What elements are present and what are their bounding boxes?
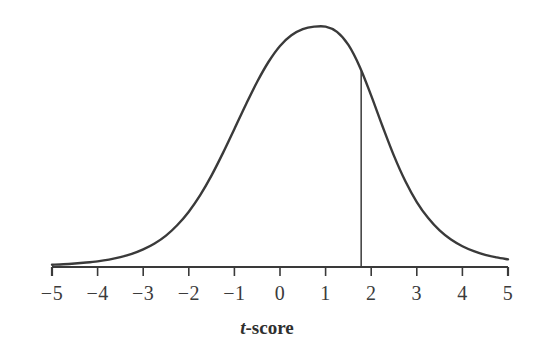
axis-group [52, 267, 508, 276]
right-tail-region [361, 70, 508, 267]
x-axis-tick-label: 5 [488, 283, 528, 303]
tail-shaded-region-group [361, 70, 508, 267]
x-axis-tick-label: −1 [214, 283, 254, 303]
x-axis-tick-marks [52, 267, 508, 276]
x-axis-tick-label: 0 [260, 283, 300, 303]
t-distribution-figure: −5−4−3−2−1012345 t-score [0, 0, 534, 357]
x-axis-tick-label: −5 [32, 283, 72, 303]
x-axis-title: t-score [0, 318, 534, 337]
x-axis-tick-label: −2 [169, 283, 209, 303]
x-axis-tick-label: 2 [351, 283, 391, 303]
axis-title-suffix: -score [246, 317, 294, 338]
distribution-plot-canvas [0, 0, 534, 357]
density-curve [52, 26, 508, 265]
x-axis-tick-label: −3 [123, 283, 163, 303]
x-axis-tick-label: 3 [397, 283, 437, 303]
x-axis-tick-label: 4 [442, 283, 482, 303]
x-axis-tick-label: −4 [78, 283, 118, 303]
x-axis-tick-label: 1 [306, 283, 346, 303]
curve-group [52, 26, 508, 265]
